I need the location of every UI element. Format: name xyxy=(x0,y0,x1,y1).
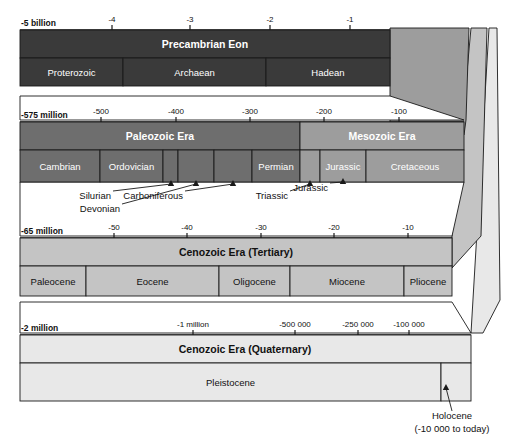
subdivision-label-archaean: Archaean xyxy=(174,67,215,78)
era-label-quaternary: Cenozoic Era (Quaternary) xyxy=(179,343,311,355)
axis-tick-label: -40 xyxy=(181,223,193,232)
axis-start-label-precambrian: -5 billion xyxy=(21,18,56,28)
subdivision-label-paleocene: Paleocene xyxy=(31,276,76,287)
axis-tick-label: -2 xyxy=(266,15,274,24)
band-quaternary: -1 million-500 000-250 000-100 000 Cenoz… xyxy=(20,320,490,434)
subdivision-label-cretaceous: Cretaceous xyxy=(391,161,440,172)
subdivision-label-jurassic: Jurassic xyxy=(326,161,361,172)
callout-label-jurassic: Jurassic xyxy=(293,182,328,193)
geologic-timescale-figure: -4-3-2-1 Precambrian Eon ProterozoicArch… xyxy=(0,0,510,444)
subdivision-label-oligocene: Oligocene xyxy=(233,276,276,287)
callout-label-holocene: Holocene xyxy=(432,410,472,421)
band-precambrian: -4-3-2-1 Precambrian Eon ProterozoicArch… xyxy=(20,15,390,86)
axis-tick-label: -4 xyxy=(108,15,116,24)
subdivision-label-eocene: Eocene xyxy=(136,276,168,287)
axis-ticks-precambrian: -4-3-2-1 xyxy=(108,15,354,30)
axis-start-label-quaternary: -2 million xyxy=(21,323,58,333)
subdivision-cell-silurian xyxy=(163,150,178,182)
era-label-precambrian: Precambrian Eon xyxy=(162,38,248,50)
axis-tick-label: -100 xyxy=(391,107,408,116)
subdivisions-paleozoic: CambrianOrdovicianPermianJurassicCretace… xyxy=(20,150,464,182)
subdivision-label-ordovician: Ordovician xyxy=(109,161,154,172)
axis-tick-label: -50 xyxy=(108,223,120,232)
subdivision-cell-holocene xyxy=(441,363,471,401)
axis-tick-label: -30 xyxy=(255,223,267,232)
callout-label-carboniferous: Carboniferous xyxy=(123,190,183,201)
subdivision-cell-devonian xyxy=(178,150,214,182)
subdivision-label-proterozoic: Proterozoic xyxy=(47,67,95,78)
subdivision-label-pliocene: Pliocene xyxy=(410,276,446,287)
axis-tick-label: -1 million xyxy=(177,320,209,329)
axis-start-label-tertiary: -65 million xyxy=(21,226,63,236)
subdivisions-quaternary: Pleistocene xyxy=(20,363,471,401)
axis-tick-label: -200 xyxy=(316,107,333,116)
callout-label-triassic: Triassic xyxy=(256,190,289,201)
axis-tick-label: -400 xyxy=(168,107,185,116)
axis-start-label-paleozoic: -575 million xyxy=(21,110,68,120)
callout-label-devonian: Devonian xyxy=(80,203,120,214)
subdivision-label-hadean: Hadean xyxy=(311,67,344,78)
axis-tick-label: -3 xyxy=(186,15,194,24)
subdivisions-tertiary: PaleoceneEoceneOligoceneMiocenePliocene xyxy=(20,266,452,296)
subdivision-label-permian: Permian xyxy=(258,161,293,172)
axis-tick-label: -300 xyxy=(242,107,259,116)
callout-label-silurian: Silurian xyxy=(79,190,111,201)
subdivisions-precambrian: ProterozoicArchaeanHadean xyxy=(20,58,390,86)
subdivision-cell-triassic xyxy=(300,150,320,182)
subdivision-label-pleistocene: Pleistocene xyxy=(206,377,255,388)
era-label-mesozoic: Mesozoic Era xyxy=(348,130,415,142)
axis-tick-label: -1 xyxy=(346,15,354,24)
axis-tick-label: -100 000 xyxy=(393,320,425,329)
subdivision-cell-carboniferous xyxy=(214,150,252,182)
axis-tick-label: -500 xyxy=(93,107,110,116)
subdivision-label-cambrian: Cambrian xyxy=(39,161,80,172)
axis-tick-label: -10 xyxy=(402,223,414,232)
axis-tick-label: -500 000 xyxy=(279,320,311,329)
callout-sublabel-holocene: (-10 000 to today) xyxy=(415,423,490,434)
era-label-paleozoic: Paleozoic Era xyxy=(126,130,194,142)
axis-tick-label: -20 xyxy=(328,223,340,232)
axis-tick-label: -250 000 xyxy=(342,320,374,329)
timescale-svg: -4-3-2-1 Precambrian Eon ProterozoicArch… xyxy=(0,0,510,444)
subdivision-label-miocene: Miocene xyxy=(329,276,365,287)
era-label-tertiary: Cenozoic Era (Tertiary) xyxy=(179,246,293,258)
